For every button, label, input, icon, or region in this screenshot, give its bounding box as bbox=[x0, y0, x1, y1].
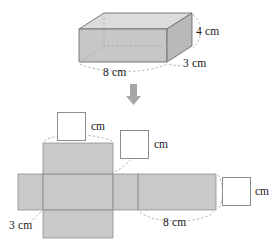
answer-unit-right-height: cm bbox=[255, 185, 269, 197]
net-left-depth-label: 3 cm bbox=[9, 219, 32, 231]
worksheet-figure: 4 cm 3 cm 8 cm cm cm cm 3 cm 8 cm bbox=[0, 0, 280, 243]
net-face-back bbox=[138, 174, 216, 210]
prism-front-face bbox=[79, 29, 167, 62]
prism-depth-leader bbox=[169, 64, 183, 66]
net-face-left bbox=[18, 174, 43, 210]
answer-unit-middle-depth: cm bbox=[154, 138, 168, 150]
down-arrow-icon bbox=[126, 84, 141, 105]
answer-box-right-height[interactable] bbox=[222, 177, 251, 206]
net-face-bottom bbox=[43, 210, 113, 238]
prism-width-label: 8 cm bbox=[103, 66, 126, 78]
net-face-right bbox=[113, 174, 138, 210]
net-face-front bbox=[43, 174, 113, 210]
prism-height-label: 4 cm bbox=[196, 25, 219, 37]
net-bottom-width-label: 8 cm bbox=[163, 216, 186, 228]
answer-box-top-width[interactable] bbox=[57, 112, 86, 141]
answer-unit-top-width: cm bbox=[91, 120, 105, 132]
net-leader-middle-depth bbox=[115, 157, 133, 172]
net-face-top bbox=[43, 143, 113, 174]
figure-canvas bbox=[0, 0, 280, 243]
answer-box-middle-depth[interactable] bbox=[120, 130, 149, 159]
prism-depth-label: 3 cm bbox=[183, 57, 206, 69]
